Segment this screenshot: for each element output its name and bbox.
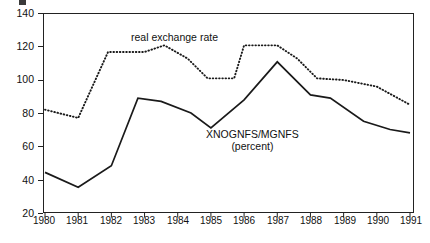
- decorative-top-mark: [19, 0, 26, 5]
- annotation-xnognfs-mgnfs-line2: (percent): [206, 140, 299, 152]
- series-canvas: [44, 14, 413, 212]
- series-line-real-exchange-rate: [45, 45, 410, 118]
- x-tick-label-1991: 1991: [391, 216, 430, 226]
- y-tick-label-100: 100: [4, 74, 34, 84]
- y-tick-label-60: 60: [4, 141, 34, 151]
- series-line-xnognfs-mgnfs: [45, 62, 410, 187]
- y-tick-label-140: 140: [4, 8, 34, 18]
- y-tick-label-40: 40: [4, 175, 34, 185]
- annotation-xnognfs-mgnfs: XNOGNFS/MGNFS (percent): [206, 128, 299, 152]
- chart-figure: 140 120 100 80 60 40 20 1980 1981 1982 1…: [0, 0, 430, 243]
- y-tick-label-120: 120: [4, 41, 34, 51]
- y-tick-label-80: 80: [4, 108, 34, 118]
- plot-area: [43, 13, 414, 213]
- annotation-real-exchange-rate: real exchange rate: [131, 31, 218, 43]
- annotation-xnognfs-mgnfs-line1: XNOGNFS/MGNFS: [206, 128, 299, 140]
